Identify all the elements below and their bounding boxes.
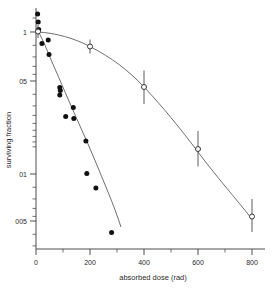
data-point-open (250, 214, 255, 219)
data-point-filled (71, 105, 76, 110)
data-point-filled (47, 52, 52, 57)
data-point-filled (63, 114, 68, 119)
y-tick-label-1: 1 (23, 29, 27, 36)
data-point-filled (35, 12, 40, 17)
y-axis-title: surviving fraction (4, 112, 13, 168)
y-tick-label-01: 01 (19, 171, 27, 178)
x-tick-label-200: 200 (84, 259, 96, 266)
y-axis-minor-ticks (33, 18, 37, 246)
x-tick-label-600: 600 (192, 259, 204, 266)
x-tick-label-800: 800 (246, 259, 258, 266)
data-point-filled (84, 171, 89, 176)
data-point-filled (109, 230, 114, 235)
upper-series-error-bars (38, 25, 252, 232)
data-point-filled (57, 93, 62, 98)
survival-curve-figure: 1 05 01 005 0 200 400 600 800 absorbed d… (0, 0, 273, 294)
data-point-filled (36, 20, 41, 25)
data-point-open (142, 85, 147, 90)
x-axis-title: absorbed dose (rad) (119, 273, 187, 282)
x-axis-major-ticks (36, 249, 252, 255)
data-point-filled (39, 41, 44, 46)
lower-series-markers (35, 12, 114, 236)
y-axis-major-ticks (30, 32, 36, 221)
y-tick-label-005: 005 (15, 218, 27, 225)
x-tick-label-0: 0 (34, 259, 38, 266)
y-tick-label-05: 05 (19, 78, 27, 85)
data-point-filled (93, 186, 98, 191)
data-point-filled (71, 116, 76, 121)
data-point-filled (46, 38, 51, 43)
data-point-open (88, 44, 93, 49)
data-point-open (196, 147, 201, 152)
data-point-filled (83, 139, 88, 144)
data-point-filled (58, 88, 63, 93)
upper-fitted-curve (38, 32, 252, 219)
data-point-open (36, 29, 41, 34)
upper-series-markers (36, 29, 255, 219)
lower-fitted-curve (39, 33, 121, 227)
x-tick-label-400: 400 (138, 259, 150, 266)
plot-axes (36, 8, 265, 249)
